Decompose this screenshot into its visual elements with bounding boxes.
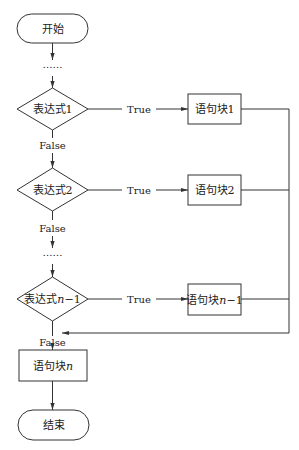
svg-text:开始: 开始 bbox=[42, 22, 64, 36]
process-block1: 语句块1 bbox=[188, 94, 241, 124]
end-node: 结束 bbox=[18, 410, 89, 440]
ellipsis-mid: …… bbox=[43, 247, 63, 258]
ellipsis-top: …… bbox=[43, 59, 63, 70]
svg-text:表达式1: 表达式1 bbox=[33, 102, 73, 116]
svg-text:语句块2: 语句块2 bbox=[195, 184, 235, 197]
decision-cond-n-minus-1: 表达式n−1 bbox=[17, 277, 88, 321]
svg-text:表达式n−1: 表达式n−1 bbox=[24, 292, 80, 306]
process-block2: 语句块2 bbox=[188, 175, 241, 205]
svg-text:表达式2: 表达式2 bbox=[33, 183, 73, 197]
label-true-n1: True bbox=[127, 294, 151, 305]
label-false2: False bbox=[39, 223, 66, 234]
start-node: 开始 bbox=[17, 14, 88, 43]
svg-text:语句块1: 语句块1 bbox=[195, 103, 235, 116]
decision-cond2: 表达式2 bbox=[17, 168, 88, 211]
process-block-n-minus-1: 语句块n−1 bbox=[186, 284, 242, 315]
decision-cond1: 表达式1 bbox=[17, 88, 88, 130]
label-true2: True bbox=[127, 185, 151, 196]
svg-text:结束: 结束 bbox=[43, 419, 65, 432]
flowchart: 开始 …… 表达式1 True 语句块1 False 表达式2 True 语句块… bbox=[0, 0, 299, 450]
label-false1: False bbox=[39, 140, 66, 151]
label-false-n1: False bbox=[39, 337, 66, 348]
svg-text:语句块n−1: 语句块n−1 bbox=[186, 294, 242, 307]
process-block-n: 语句块n bbox=[19, 350, 87, 381]
svg-text:语句块n: 语句块n bbox=[33, 360, 73, 373]
label-true1: True bbox=[127, 104, 151, 115]
